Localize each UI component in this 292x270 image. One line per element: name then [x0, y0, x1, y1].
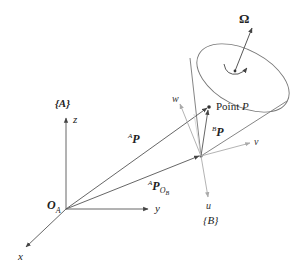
u-axis-b-tail	[194, 114, 201, 156]
x-axis-label: x	[18, 251, 23, 262]
y-axis-label: y	[155, 203, 160, 214]
vector-bp	[201, 110, 208, 156]
vector-ap-superscript: A	[128, 132, 132, 140]
vector-ap-ob-label: APOB	[148, 180, 169, 192]
vector-ap	[66, 108, 207, 209]
frame-b-axes	[180, 104, 250, 197]
z-axis-label: z	[73, 114, 77, 125]
v-axis-b	[201, 143, 250, 156]
frame-a-label-text: {A}	[55, 97, 70, 109]
point-p-prefix: Point	[216, 100, 242, 112]
diagram-canvas: Ω {A} z y x OA AP APOB BP Point P w v u …	[0, 0, 292, 270]
origin-a-label: OA	[47, 199, 61, 211]
vector-ap-ob-subsubscript: B	[165, 190, 169, 196]
vector-bp-superscript: B	[212, 125, 216, 133]
vector-ap-ob-superscript: A	[148, 179, 152, 187]
frame-a-label: {A}	[55, 98, 70, 109]
origin-a-subscript: A	[56, 206, 61, 215]
vector-ap-symbol: P	[132, 132, 139, 146]
frame-b-label: {B}	[203, 215, 219, 226]
w-axis-label: w	[172, 94, 179, 104]
vector-bp-symbol: P	[216, 125, 223, 139]
point-p-var: P	[242, 100, 249, 112]
v-axis-label: v	[254, 137, 258, 147]
omega-label: Ω	[239, 12, 249, 25]
vector-bp-label: BP	[212, 126, 224, 138]
vector-ap-ob	[66, 156, 199, 209]
vector-ap-label: AP	[128, 133, 140, 145]
origin-a-symbol: O	[47, 198, 56, 212]
point-p-dot	[207, 105, 211, 109]
angular-velocity	[224, 28, 252, 74]
u-axis-label: u	[206, 201, 211, 211]
diagram-svg	[0, 0, 292, 270]
rigid-body-cone	[186, 30, 292, 156]
omega-arrow	[235, 28, 252, 71]
u-axis-b	[201, 156, 208, 197]
point-p-label: Point P	[216, 101, 249, 112]
position-vectors	[66, 105, 211, 209]
omega-center-dot	[234, 70, 237, 73]
vector-ap-ob-symbol: P	[152, 179, 159, 193]
